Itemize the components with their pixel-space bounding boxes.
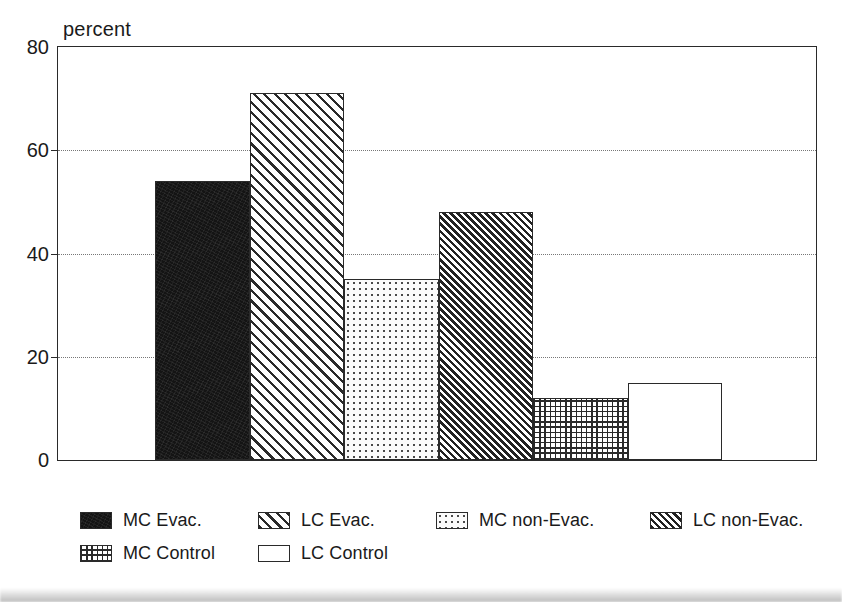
page-edge-shadow [0,588,842,602]
bar-mc-control [533,398,628,460]
legend-row-1: MC ControlLC Control [80,540,840,566]
bar-lc-non-evac [439,212,534,460]
bar-mc-non-evac [344,279,439,460]
legend-label: LC non-Evac. [693,510,803,531]
legend-label: MC Control [123,543,215,564]
y-tick-label-0: 0 [38,449,49,472]
y-tick-label-80: 80 [27,36,49,59]
plot-area-wrapper: percent 806040200 [0,0,842,500]
plot-axes: 806040200 [57,46,817,461]
chart-legend: MC Evac.LC Evac.MC non-Evac.LC non-Evac.… [80,505,840,585]
legend-label: MC non-Evac. [479,510,594,531]
y-tick-label-20: 20 [27,345,49,368]
y-tick-label-60: 60 [27,139,49,162]
legend-swatch-icon [436,512,468,529]
bar-mc-evac [155,181,250,460]
legend-item-mc-non-evac[interactable]: MC non-Evac. [436,507,594,533]
bar-chart-figure: percent 806040200 MC Evac.LC Evac.MC non… [0,0,842,602]
y-axis-unit-label: percent [63,18,131,41]
legend-swatch-icon [80,545,112,562]
legend-item-lc-evac[interactable]: LC Evac. [258,507,375,533]
legend-row-0: MC Evac.LC Evac.MC non-Evac.LC non-Evac. [80,507,840,533]
legend-swatch-icon [258,512,290,529]
legend-label: MC Evac. [123,510,202,531]
legend-item-lc-non-evac[interactable]: LC non-Evac. [650,507,803,533]
bars-group [58,47,816,460]
legend-item-lc-control[interactable]: LC Control [258,540,388,566]
legend-item-mc-evac[interactable]: MC Evac. [80,507,202,533]
legend-swatch-icon [258,545,290,562]
bar-lc-control [628,383,723,460]
legend-swatch-icon [80,512,112,529]
bar-lc-evac [250,93,345,460]
legend-label: LC Control [301,543,388,564]
y-tick-mark-40 [51,254,58,255]
legend-item-mc-control[interactable]: MC Control [80,540,215,566]
y-tick-mark-60 [51,150,58,151]
legend-swatch-icon [650,512,682,529]
y-tick-mark-20 [51,357,58,358]
y-tick-label-40: 40 [27,242,49,265]
legend-label: LC Evac. [301,510,375,531]
